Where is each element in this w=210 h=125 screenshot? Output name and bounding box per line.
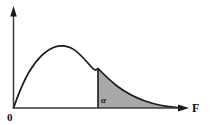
x-axis-arrowhead-icon [178,105,189,112]
x-axis-label: F [192,101,199,115]
f-distribution-figure: 0 F α [0,0,210,125]
tail-shaded-area [98,69,178,109]
y-axis-arrowhead-icon [10,6,17,17]
origin-label: 0 [7,111,13,123]
density-curve [14,46,179,108]
figure-canvas: 0 F α [0,0,210,125]
